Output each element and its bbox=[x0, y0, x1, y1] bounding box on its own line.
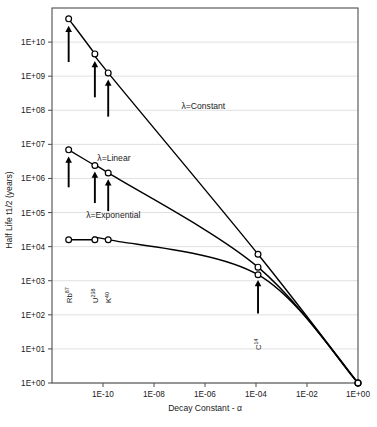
series-label-λ=Linear: λ=Linear bbox=[97, 153, 130, 163]
y-tick-label-1E+02: 1E+02 bbox=[21, 311, 45, 320]
isotope-mass-number: 238 bbox=[90, 289, 96, 298]
chart-background bbox=[0, 0, 377, 427]
y-axis-label: Half Life t1/2 (years) bbox=[4, 171, 14, 249]
y-tick-label-1E+00: 1E+00 bbox=[21, 379, 45, 388]
data-point-marker bbox=[66, 16, 72, 22]
x-axis-label: Decay Constant - α bbox=[168, 403, 242, 413]
series-label-λ=Constant: λ=Constant bbox=[182, 101, 226, 111]
y-tick-label-1E+06: 1E+06 bbox=[21, 174, 45, 183]
x-tick-label-1E-04: 1E-04 bbox=[245, 390, 267, 399]
y-tick-label-1E+08: 1E+08 bbox=[21, 106, 45, 115]
data-point-marker bbox=[66, 147, 72, 153]
data-point-marker bbox=[92, 51, 98, 57]
chart-root: 1E+001E+011E+021E+031E+041E+051E+061E+07… bbox=[0, 0, 377, 427]
data-point-marker bbox=[92, 163, 98, 169]
isotope-mass-number: 40 bbox=[104, 292, 110, 298]
y-tick-label-1E+07: 1E+07 bbox=[21, 140, 45, 149]
x-tick-label-1E-06: 1E-06 bbox=[194, 390, 216, 399]
y-tick-label-1E+03: 1E+03 bbox=[21, 277, 45, 286]
data-point-marker bbox=[66, 237, 72, 243]
x-tick-label-1E+00: 1E+00 bbox=[346, 390, 370, 399]
data-point-marker bbox=[255, 272, 261, 278]
data-point-marker bbox=[105, 70, 111, 76]
x-tick-label-1E-02: 1E-02 bbox=[296, 390, 318, 399]
series-label-λ=Exponential: λ=Exponential bbox=[86, 210, 140, 220]
y-tick-label-1E+09: 1E+09 bbox=[21, 72, 45, 81]
y-tick-label-1E+10: 1E+10 bbox=[21, 38, 45, 47]
data-point-marker bbox=[255, 264, 261, 270]
isotope-mass-number: 87 bbox=[64, 287, 70, 293]
data-point-marker bbox=[355, 380, 361, 386]
isotope-mass-number: 14 bbox=[253, 339, 259, 345]
x-tick-label-1E-08: 1E-08 bbox=[143, 390, 165, 399]
data-point-marker bbox=[255, 251, 261, 257]
half-life-decay-constant-chart: 1E+001E+011E+021E+031E+041E+051E+061E+07… bbox=[0, 0, 377, 427]
data-point-marker bbox=[105, 170, 111, 176]
y-tick-label-1E+04: 1E+04 bbox=[21, 243, 45, 252]
x-tick-label-1E-10: 1E-10 bbox=[92, 390, 114, 399]
data-point-marker bbox=[105, 237, 111, 243]
y-tick-label-1E+05: 1E+05 bbox=[21, 209, 45, 218]
data-point-marker bbox=[92, 237, 98, 243]
y-tick-label-1E+01: 1E+01 bbox=[21, 345, 45, 354]
